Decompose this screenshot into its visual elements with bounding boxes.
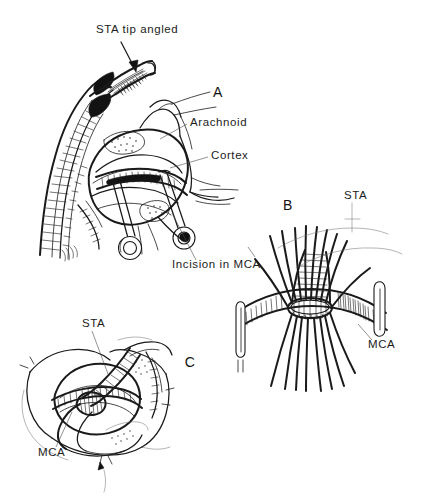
micro-clamp-left xyxy=(112,179,142,260)
panel-c-pocket-stipple xyxy=(111,430,133,444)
label-sta-tip-angled: STA tip angled xyxy=(96,23,178,35)
micro-clamp-right xyxy=(159,171,195,250)
label-panel-b-sta: STA xyxy=(344,189,367,201)
label-cortex: Cortex xyxy=(211,149,248,161)
vessel-clip-left xyxy=(236,302,245,372)
label-panel-c-sta: STA xyxy=(82,317,105,329)
figure-page: STA tip angled Arachnoid Cortex Incision… xyxy=(0,0,422,500)
surgical-illustration: STA tip angled Arachnoid Cortex Incision… xyxy=(0,0,422,500)
panel-c-illustration xyxy=(20,331,174,492)
label-panel-c-mca: MCA xyxy=(38,446,65,458)
arachnoid-flap xyxy=(140,92,234,200)
panel-letter-a: A xyxy=(213,84,223,100)
vessel-clip-right xyxy=(374,282,385,336)
panel-b-sta-leader xyxy=(345,203,360,232)
suture-threads-lower xyxy=(271,313,355,391)
panel-letter-c: C xyxy=(185,354,196,370)
label-panel-b-mca: MCA xyxy=(368,338,395,350)
label-arachnoid: Arachnoid xyxy=(190,116,247,128)
sta-cut-segment xyxy=(89,72,114,117)
sta-vessel-shadow xyxy=(63,166,87,246)
label-incision-in-mca: Incision in MCA xyxy=(172,258,261,270)
panel-letter-b: B xyxy=(283,197,293,213)
dural-flap-upper-right xyxy=(124,342,172,418)
panel-b-illustration xyxy=(236,203,402,391)
fine-tissue-squiggle xyxy=(62,246,77,261)
